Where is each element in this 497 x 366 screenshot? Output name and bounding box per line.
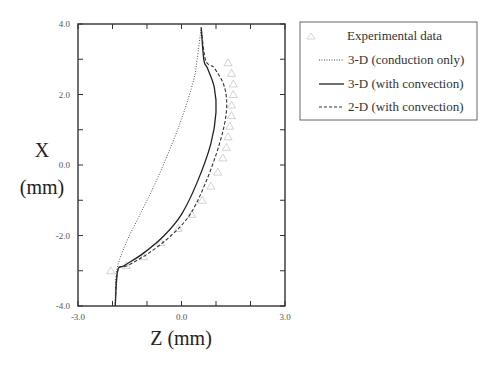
legend-label-conduction: 3-D (conduction only) — [348, 52, 464, 67]
y-tick-label: -2.0 — [56, 231, 71, 241]
experimental-data-point — [224, 133, 232, 140]
axis-tick-labels: -3.00.03.04.02.00.0-2.0-4.0 — [56, 19, 291, 322]
y-tick-label: -4.0 — [56, 301, 71, 311]
y-tick-label: 4.0 — [59, 19, 71, 29]
chart: -3.00.03.04.02.00.0-2.0-4.0 X (mm) Z (mm… — [0, 0, 497, 366]
experimental-data-point — [229, 80, 237, 87]
plot-frame — [78, 24, 285, 306]
x-axis-title: Z (mm) — [150, 327, 212, 350]
y-tick-label: 2.0 — [59, 90, 71, 100]
experimental-data-point — [228, 101, 236, 108]
data-series — [107, 28, 237, 306]
y-tick-label: 0.0 — [59, 160, 71, 170]
experimental-data-point — [226, 122, 234, 129]
legend-label-experimental: Experimental data — [347, 28, 442, 43]
experimental-data-point — [207, 182, 215, 189]
legend: Experimental data 3-D (conduction only) … — [300, 22, 477, 120]
axis-ticks — [78, 24, 285, 306]
experimental-data-point — [219, 154, 227, 161]
experimental-data-point — [229, 91, 237, 98]
x-tick-label: 3.0 — [279, 312, 291, 322]
experimental-data-point — [214, 168, 222, 175]
experimental-data-point — [174, 224, 182, 231]
experimental-data-point — [228, 69, 236, 76]
series-line — [115, 28, 226, 306]
experimental-data-point — [224, 59, 232, 66]
legend-label-3d-convection: 3-D (with convection) — [348, 76, 464, 91]
experimental-data-point — [107, 267, 115, 274]
x-tick-label: 0.0 — [176, 312, 188, 322]
y-axis-title: X — [35, 139, 50, 161]
legend-label-2d-convection: 2-D (with convection) — [348, 99, 464, 114]
experimental-data-point — [222, 143, 230, 150]
x-tick-label: -3.0 — [71, 312, 86, 322]
experimental-data-point — [228, 112, 236, 119]
y-axis-title-unit: (mm) — [20, 176, 64, 199]
